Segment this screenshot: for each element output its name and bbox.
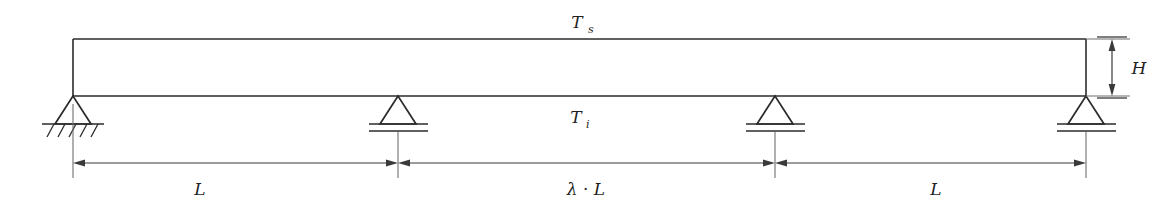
top-temperature-subscript: s xyxy=(588,23,594,36)
dimension-height: H xyxy=(1086,37,1148,98)
dimension-label-span-left: L xyxy=(193,179,205,199)
roller-support-triangle-icon-4 xyxy=(1068,96,1104,124)
arrowhead-left-end xyxy=(386,160,398,167)
temperature-label-inferior: T i xyxy=(570,107,589,131)
dimension-span-middle: λ · L xyxy=(398,160,775,199)
arrowhead-height-bottom xyxy=(1109,84,1116,96)
dimension-label-height: H xyxy=(1131,58,1148,78)
arrowhead-height-top xyxy=(1109,39,1116,51)
beam-diagram-canvas: T s T i xyxy=(0,0,1172,210)
structural-beam-diagram: T s T i xyxy=(0,0,1172,210)
dimension-label-span-right: L xyxy=(929,179,941,199)
roller-support-triangle-icon-3 xyxy=(757,96,793,124)
dimension-span-right: L xyxy=(775,160,1086,199)
temperature-label-superior: T s xyxy=(571,12,594,36)
bottom-temperature-subscript: i xyxy=(586,118,590,131)
arrowhead-middle-end xyxy=(763,160,775,167)
support-roller-2 xyxy=(369,96,428,131)
arrowhead-right-end xyxy=(1074,160,1086,167)
arrowhead-left-start xyxy=(73,160,85,167)
support-roller-3 xyxy=(746,96,805,131)
roller-support-triangle-icon-2 xyxy=(380,96,416,124)
dimension-span-left: L xyxy=(73,160,398,199)
bottom-temperature-symbol: T xyxy=(570,107,583,127)
top-temperature-symbol: T xyxy=(571,12,584,32)
arrowhead-right-start xyxy=(775,160,787,167)
support-roller-right xyxy=(1057,96,1116,131)
beam-body xyxy=(73,39,1086,96)
dimension-label-span-middle: λ · L xyxy=(566,179,605,199)
arrowhead-middle-start xyxy=(398,160,410,167)
